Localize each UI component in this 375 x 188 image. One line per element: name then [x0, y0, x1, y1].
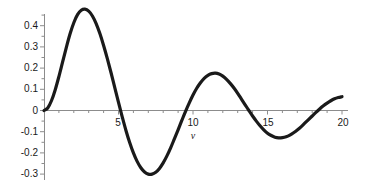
x-axis-title: v: [185, 131, 201, 141]
x-tick-marks: [59, 111, 342, 115]
y-tick-label-0: 0.4: [6, 21, 38, 31]
x-tick-label-5: 5: [106, 118, 130, 128]
x-tick-label-15: 15: [256, 118, 280, 128]
axis-group: [44, 14, 348, 180]
y-tick-label-5: -0.1: [2, 127, 38, 137]
data-curve: [44, 9, 342, 174]
x-tick-label-10: 10: [181, 118, 205, 128]
y-tick-label-3: 0.1: [6, 84, 38, 94]
x-tick-label-20: 20: [331, 118, 355, 128]
y-tick-label-4: 0: [6, 106, 38, 116]
y-tick-label-7: -0.3: [2, 169, 38, 179]
plot-area: [0, 0, 375, 188]
y-tick-marks: [40, 15, 44, 174]
y-tick-label-6: -0.2: [2, 148, 38, 158]
chart-container: 0.4 0.3 0.2 0.1 0 -0.1 -0.2 -0.3 5 10 15…: [0, 0, 375, 188]
y-tick-label-2: 0.2: [6, 63, 38, 73]
y-tick-label-1: 0.3: [6, 42, 38, 52]
